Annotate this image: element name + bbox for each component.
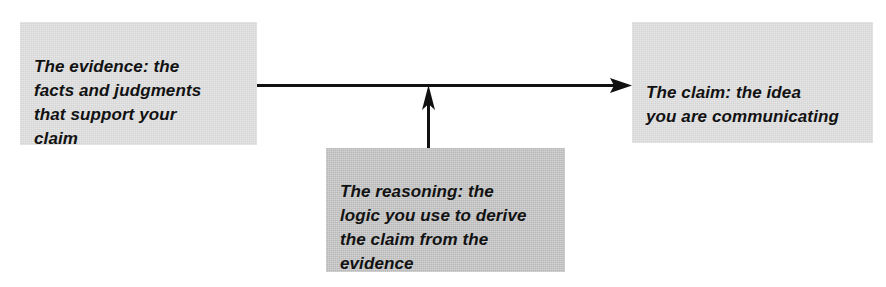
node-claim-label: The claim: the idea you are communicatin… (646, 83, 839, 126)
connector-reasoning-to-link (422, 85, 435, 148)
node-evidence-label: The evidence: the facts and judgments th… (34, 57, 201, 148)
connector-evidence-to-claim (257, 78, 632, 93)
node-reasoning: The reasoning: the logic you use to deri… (326, 148, 565, 272)
node-claim: The claim: the idea you are communicatin… (632, 22, 873, 143)
diagram-canvas: The evidence: the facts and judgments th… (0, 0, 886, 287)
node-reasoning-label: The reasoning: the logic you use to deri… (340, 182, 527, 273)
arrowhead-right-icon (610, 78, 632, 93)
node-evidence: The evidence: the facts and judgments th… (20, 22, 257, 145)
arrowhead-up-icon (422, 85, 435, 110)
